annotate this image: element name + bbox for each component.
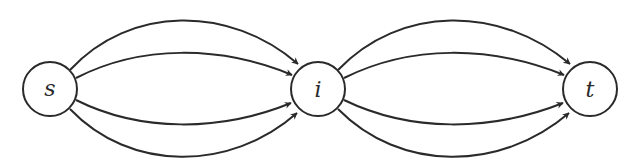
- edge-s-i-1: [70, 20, 298, 70]
- node-i: i: [291, 62, 345, 116]
- node-t-label: t: [586, 77, 595, 102]
- edges-s-to-i: [70, 20, 298, 156]
- edges-i-to-t: [338, 20, 570, 156]
- edge-i-t-4: [338, 109, 569, 157]
- node-t: t: [563, 62, 617, 116]
- node-s: s: [23, 62, 77, 116]
- edge-i-t-3: [344, 100, 563, 124]
- edge-s-i-3: [76, 100, 291, 124]
- edge-s-i-4: [70, 109, 297, 157]
- graph-diagram: s i t: [0, 0, 642, 167]
- edge-i-t-1: [338, 20, 570, 70]
- node-s-label: s: [44, 76, 55, 101]
- edge-s-i-2: [76, 53, 292, 78]
- edge-i-t-2: [344, 53, 564, 78]
- node-i-label: i: [314, 77, 321, 102]
